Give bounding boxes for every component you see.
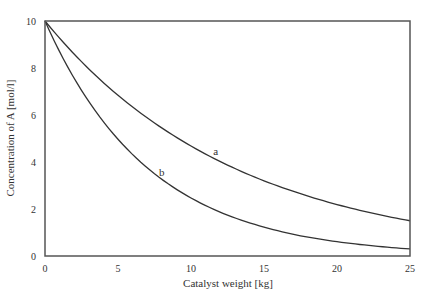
y-axis-ticks: 0246810 [26, 16, 36, 262]
y-tick-label: 4 [31, 157, 36, 168]
curve-label-b: b [159, 166, 165, 178]
y-tick-label: 6 [31, 110, 36, 121]
x-tick-label: 5 [116, 263, 121, 274]
x-tick-label: 25 [405, 263, 415, 274]
curve-labels: ab [159, 145, 218, 178]
curve-label-a: a [213, 145, 218, 157]
y-tick-label: 8 [31, 63, 36, 74]
plot-frame [45, 21, 410, 256]
x-axis-ticks: 0510152025 [43, 263, 416, 274]
x-axis-title: Catalyst weight [kg] [183, 277, 273, 289]
x-tick-label: 20 [332, 263, 342, 274]
y-tick-label: 10 [26, 16, 36, 27]
y-axis-title: Concentration of A [mol/l] [4, 79, 16, 196]
plot-curves [45, 21, 410, 249]
x-tick-label: 10 [186, 263, 196, 274]
curve-b [45, 21, 410, 249]
chart: 0246810 0510152025 ab Catalyst weight [k… [0, 0, 431, 302]
y-tick-label: 2 [31, 204, 36, 215]
x-tick-label: 15 [259, 263, 269, 274]
y-tick-label: 0 [31, 251, 36, 262]
x-tick-label: 0 [43, 263, 48, 274]
curve-a [45, 21, 410, 221]
